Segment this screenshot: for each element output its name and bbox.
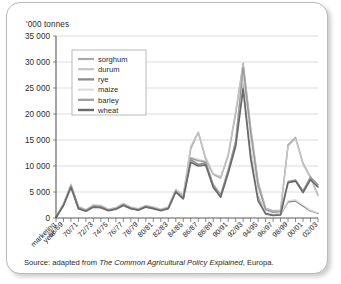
chart-area: '000 tonnes 05 00010 00015 00020 00025 0…: [7, 3, 329, 253]
legend-label-maize: maize: [98, 85, 118, 94]
x-axis-tick-label: 82/83: [151, 220, 170, 239]
x-axis-tick-label: 92/93: [225, 220, 244, 239]
chart-legend: sorghumdurumryemaizebarleywheat: [72, 50, 146, 115]
y-axis-tick-label: 35 000: [25, 32, 50, 41]
x-axis-tick-label: 96/97: [255, 220, 274, 239]
y-axis-tick-label: 5 000: [30, 188, 51, 197]
x-axis-labels: marketingyear68/6970/7172/7374/7576/7778…: [29, 220, 320, 249]
figure-card: '000 tonnes 05 00010 00015 00020 00025 0…: [6, 2, 328, 274]
y-axis-tick-label: 10 000: [25, 162, 50, 171]
y-axis-tick-label: 20 000: [25, 110, 50, 119]
source-caption: Source: adapted from The Common Agricult…: [24, 258, 324, 267]
x-axis-ticks: [56, 218, 318, 222]
source-work-title: The Common Agricultural Policy Explained: [99, 258, 243, 267]
y-axis-labels: 05 00010 00015 00020 00025 00030 00035 0…: [25, 32, 50, 223]
y-axis-tick-label: 15 000: [25, 136, 50, 145]
x-axis-tick-label: 74/75: [91, 220, 110, 239]
legend-label-sorghum: sorghum: [98, 55, 128, 64]
legend-label-rye: rye: [98, 75, 109, 84]
x-axis-tick-label: 86/87: [181, 220, 200, 239]
y-axis-tick-label: 25 000: [25, 84, 50, 93]
x-axis-tick-label: 88/89: [196, 220, 215, 239]
x-axis-tick-label: 02/03: [300, 220, 319, 239]
x-axis-tick-label: 76/77: [106, 220, 125, 239]
x-axis-tick-label: 90/91: [210, 220, 229, 239]
legend-label-durum: durum: [98, 65, 120, 74]
x-axis-tick-label: 72/73: [76, 220, 95, 239]
x-axis-tick-label: 78/79: [121, 220, 140, 239]
y-axis-tick-label: 30 000: [25, 58, 50, 67]
source-suffix: , Europa.: [243, 258, 274, 267]
x-axis-tick-label: 00/01: [285, 220, 304, 239]
legend-label-barley: barley: [98, 96, 119, 105]
legend-label-wheat: wheat: [97, 106, 119, 115]
x-axis-tick-label: 80/81: [136, 220, 155, 239]
x-axis-tick-label: 84/85: [166, 220, 185, 239]
x-axis-tick-label: 70/71: [61, 220, 80, 239]
x-axis-tick-label: 98/99: [270, 220, 289, 239]
source-prefix: Source: adapted from: [24, 258, 99, 267]
x-axis-tick-label: 94/95: [240, 220, 259, 239]
line-chart-plot: 05 00010 00015 00020 00025 00030 00035 0…: [7, 3, 329, 253]
